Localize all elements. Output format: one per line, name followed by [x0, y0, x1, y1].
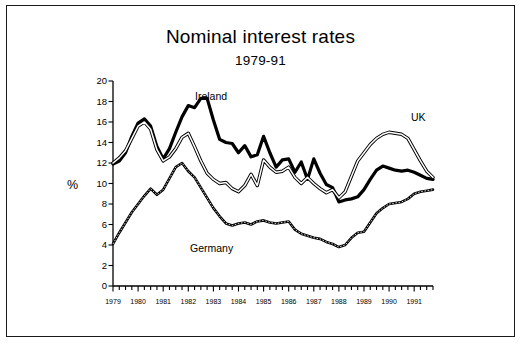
- chart-subtitle: 1979-91: [7, 53, 514, 68]
- x-tick-1991: 1991: [397, 298, 431, 305]
- series-label-uk: UK: [411, 111, 426, 123]
- y-tick-16: 16: [85, 117, 107, 127]
- series-ireland: [113, 98, 433, 202]
- y-tick-20: 20: [85, 76, 107, 86]
- y-tick-8: 8: [85, 199, 107, 209]
- series-hatch-germany: [113, 163, 433, 247]
- plot-area: [113, 81, 433, 286]
- figure-frame: Nominal interest rates 1979-91 % 0246810…: [6, 5, 515, 337]
- y-axis-label: %: [67, 178, 78, 192]
- chart-axes: [109, 81, 434, 292]
- series-label-ireland: Ireland: [195, 90, 227, 102]
- chart-series-group: [113, 98, 433, 247]
- series-germany: [113, 163, 433, 247]
- series-label-germany: Germany: [190, 242, 233, 254]
- y-tick-10: 10: [85, 179, 107, 189]
- y-tick-4: 4: [85, 240, 107, 250]
- y-tick-2: 2: [85, 261, 107, 271]
- y-tick-14: 14: [85, 138, 107, 148]
- series-outline-germany: [113, 163, 433, 247]
- y-tick-0: 0: [85, 281, 107, 291]
- y-tick-6: 6: [85, 220, 107, 230]
- series-line-ireland: [113, 98, 433, 202]
- chart-figure: Nominal interest rates 1979-91 % 0246810…: [7, 6, 514, 336]
- chart-title: Nominal interest rates: [7, 26, 514, 48]
- y-tick-12: 12: [85, 158, 107, 168]
- y-tick-18: 18: [85, 97, 107, 107]
- chart-svg: [113, 81, 433, 286]
